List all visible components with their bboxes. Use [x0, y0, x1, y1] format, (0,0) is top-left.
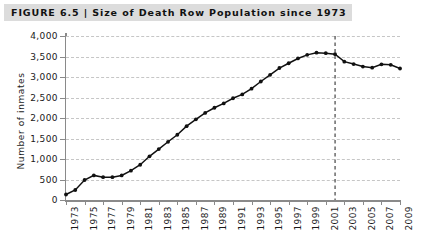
x-axis-tick-mark	[252, 201, 253, 205]
data-point-marker	[148, 154, 152, 158]
data-point-marker	[213, 106, 217, 110]
x-axis-tick-label: 2009	[404, 206, 414, 231]
x-axis-tick-mark	[270, 201, 271, 205]
data-point-marker	[287, 61, 291, 65]
x-axis-tick-mark	[159, 201, 160, 205]
x-axis-tick-label: 1987	[200, 206, 210, 231]
y-axis-tick-label: 500	[0, 175, 58, 185]
y-axis-tick-mark	[60, 200, 65, 201]
data-point-marker	[120, 174, 124, 178]
x-axis-tick-label: 1975	[89, 206, 99, 231]
data-point-marker	[222, 102, 226, 106]
data-point-marker	[370, 66, 374, 70]
data-point-marker	[203, 111, 207, 115]
data-point-marker	[175, 133, 179, 137]
y-axis-tick-label: 3,000	[0, 72, 58, 82]
x-axis-tick-mark	[85, 201, 86, 205]
x-axis-tick-mark	[233, 201, 234, 205]
x-axis-tick-label: 1991	[237, 206, 247, 231]
x-axis-tick-mark	[381, 201, 382, 205]
data-point-marker	[277, 66, 281, 70]
data-point-marker	[64, 193, 68, 197]
data-point-marker	[259, 80, 263, 84]
y-axis-tick-mark	[60, 77, 65, 78]
x-axis-tick-label: 2005	[367, 206, 377, 231]
data-point-marker	[185, 124, 189, 128]
data-point-marker	[315, 51, 319, 55]
y-axis-tick-mark	[60, 57, 65, 58]
data-point-marker	[389, 63, 393, 67]
x-axis-tick-label: 1985	[181, 206, 191, 231]
x-axis-tick-mark	[400, 201, 401, 205]
data-point-marker	[342, 60, 346, 64]
death-row-population-line	[66, 53, 400, 195]
data-point-marker	[129, 169, 133, 173]
y-axis-tick-label: 4,000	[0, 31, 58, 41]
x-axis-tick-mark	[289, 201, 290, 205]
data-point-marker	[361, 65, 365, 69]
y-axis-tick-mark	[60, 180, 65, 181]
data-point-marker	[194, 117, 198, 121]
data-point-marker	[101, 175, 105, 179]
x-axis-tick-label: 2003	[348, 206, 358, 231]
x-axis-tick-mark	[196, 201, 197, 205]
figure-root: FIGURE 6.5 | Size of Death Row Populatio…	[0, 0, 421, 247]
y-axis-tick-label: 0	[0, 195, 58, 205]
y-axis-tick-label: 2,500	[0, 93, 58, 103]
x-axis-tick-label: 1979	[126, 206, 136, 231]
x-axis-tick-label: 1977	[107, 206, 117, 231]
data-point-marker	[380, 62, 384, 66]
data-point-marker	[352, 62, 356, 66]
x-axis-tick-mark	[103, 201, 104, 205]
y-axis-tick-label: 1,500	[0, 134, 58, 144]
y-axis-tick-mark	[60, 98, 65, 99]
data-point-marker	[250, 87, 254, 91]
data-point-marker	[73, 188, 77, 192]
data-point-marker	[305, 53, 309, 57]
data-point-marker	[398, 67, 402, 71]
y-axis-tick-mark	[60, 139, 65, 140]
x-axis-tick-mark	[177, 201, 178, 205]
data-point-markers	[64, 51, 402, 197]
x-axis-tick-label: 1997	[293, 206, 303, 231]
x-axis-tick-label: 1983	[163, 206, 173, 231]
data-point-marker	[166, 140, 170, 144]
y-axis-tick-mark	[60, 36, 65, 37]
x-axis-tick-label: 2001	[330, 206, 340, 231]
x-axis-tick-mark	[307, 201, 308, 205]
x-axis-tick-label: 1981	[144, 206, 154, 231]
x-axis-tick-label: 2007	[385, 206, 395, 231]
data-point-marker	[333, 52, 337, 56]
x-axis-tick-mark	[122, 201, 123, 205]
series-plot	[66, 36, 400, 200]
x-axis-tick-mark	[344, 201, 345, 205]
data-point-marker	[324, 51, 328, 55]
x-axis-tick-mark	[363, 201, 364, 205]
x-axis-tick-label: 1989	[218, 206, 228, 231]
y-axis-tick-label: 1,000	[0, 154, 58, 164]
plot-area	[66, 36, 400, 200]
x-axis-tick-label: 1995	[274, 206, 284, 231]
data-point-marker	[110, 175, 114, 179]
x-axis-tick-label: 1973	[70, 206, 80, 231]
y-axis-tick-label: 2,000	[0, 113, 58, 123]
x-axis-tick-mark	[140, 201, 141, 205]
data-point-marker	[138, 163, 142, 167]
x-axis-tick-mark	[326, 201, 327, 205]
data-point-marker	[240, 93, 244, 97]
x-axis-tick-label: 1999	[311, 206, 321, 231]
data-point-marker	[157, 147, 161, 151]
y-axis-tick-mark	[60, 118, 65, 119]
x-axis-tick-label: 1993	[256, 206, 266, 231]
data-point-marker	[231, 96, 235, 100]
y-axis-tick-label: 3,500	[0, 52, 58, 62]
data-point-marker	[83, 178, 87, 182]
data-point-marker	[92, 174, 96, 178]
data-point-marker	[296, 57, 300, 61]
x-axis-tick-mark	[214, 201, 215, 205]
x-axis-tick-mark	[66, 201, 67, 205]
data-point-marker	[268, 73, 272, 77]
y-axis-tick-mark	[60, 159, 65, 160]
